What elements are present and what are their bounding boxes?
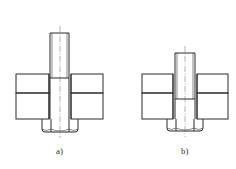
panel-a: a) bbox=[16, 26, 103, 156]
bolt-shank bbox=[50, 33, 69, 119]
panel-label-a: a) bbox=[56, 146, 63, 156]
panel-b: b) bbox=[142, 46, 228, 156]
panel-label-b: b) bbox=[181, 146, 189, 156]
bolted-joint-diagram: a) b) bbox=[0, 0, 236, 169]
